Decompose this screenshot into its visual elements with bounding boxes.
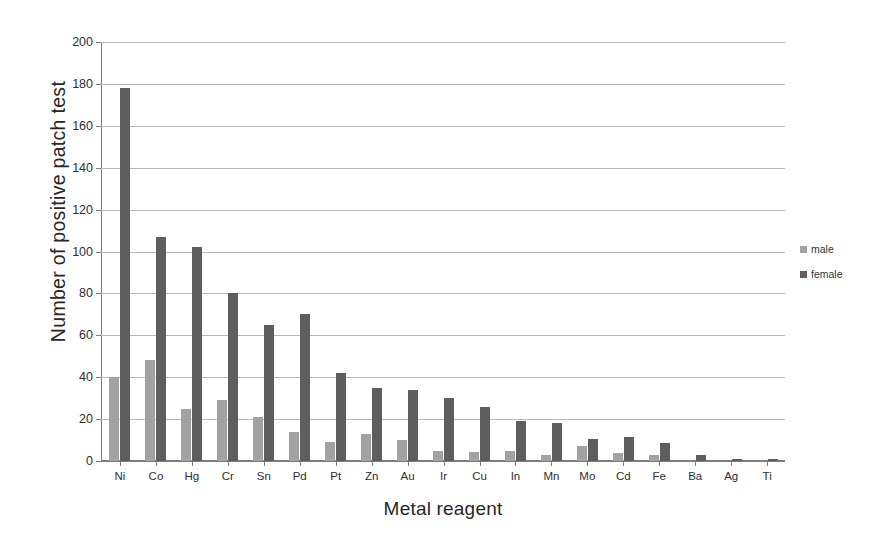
y-tick-mark (96, 377, 101, 378)
x-tick-label: Pd (293, 470, 307, 482)
bar-female-Co (156, 237, 166, 461)
bar-female-Ag (732, 459, 742, 461)
bar-group: Cr (210, 42, 246, 461)
legend-swatch-icon (800, 246, 807, 253)
y-tick-label: 180 (72, 77, 93, 91)
chart-legend: malefemale (800, 243, 872, 293)
bar-female-Pd (300, 314, 310, 461)
bar-male-Pd (289, 432, 299, 461)
x-tick-label: Mn (543, 470, 559, 482)
x-tick-label: In (511, 470, 521, 482)
bar-male-In (505, 451, 515, 461)
x-tick-mark (228, 461, 229, 466)
bar-female-Ni (120, 88, 130, 461)
x-tick-label: Ag (724, 470, 738, 482)
bar-male-Mn (541, 455, 551, 461)
bar-female-Sn (264, 325, 274, 461)
legend-label: female (811, 268, 843, 280)
x-tick-mark (695, 461, 696, 466)
x-tick-mark (408, 461, 409, 466)
bar-female-Cr (228, 293, 238, 461)
x-tick-mark (300, 461, 301, 466)
x-tick-mark (659, 461, 660, 466)
legend-item-female: female (800, 268, 872, 280)
bar-group: Zn (354, 42, 390, 461)
y-axis-title: Number of positive patch test (47, 42, 70, 382)
bars-layer: NiCoHgCrSnPdPtZnAuIrCuInMnMoCdFeBaAgTi (102, 42, 785, 461)
bar-female-Cu (480, 407, 490, 461)
y-tick-mark (96, 42, 101, 43)
legend-swatch-icon (800, 271, 807, 278)
x-tick-label: Co (149, 470, 164, 482)
x-tick-mark (731, 461, 732, 466)
x-tick-mark (336, 461, 337, 466)
bar-male-Zn (361, 434, 371, 461)
bar-female-Mo (588, 439, 598, 461)
y-tick-mark (96, 126, 101, 127)
bar-female-Fe (660, 443, 670, 461)
x-tick-label: Fe (653, 470, 666, 482)
bar-female-Zn (372, 388, 382, 461)
x-axis-title: Metal reagent (101, 498, 785, 520)
bar-group: Fe (641, 42, 677, 461)
x-tick-label: Ir (440, 470, 447, 482)
legend-item-male: male (800, 243, 872, 255)
x-tick-label: Ni (115, 470, 126, 482)
plot-area: 020406080100120140160180200 NiCoHgCrSnPd… (101, 42, 785, 461)
y-tick-mark (96, 252, 101, 253)
bar-male-Sn (253, 417, 263, 461)
y-tick-mark (96, 419, 101, 420)
bar-group: Ag (713, 42, 749, 461)
bar-male-Co (145, 360, 155, 461)
bar-female-Mn (552, 423, 562, 461)
y-tick-label: 80 (79, 286, 93, 300)
y-tick-label: 140 (72, 161, 93, 175)
bar-group: Mn (533, 42, 569, 461)
bar-group: Co (138, 42, 174, 461)
x-tick-label: Zn (365, 470, 378, 482)
x-tick-mark (156, 461, 157, 466)
x-tick-mark (120, 461, 121, 466)
bar-male-Pt (325, 442, 335, 461)
y-tick-mark (96, 335, 101, 336)
bar-male-Au (397, 440, 407, 461)
bar-female-Ba (696, 455, 706, 461)
bar-male-Hg (181, 409, 191, 461)
y-tick-mark (96, 168, 101, 169)
y-tick-mark (96, 461, 101, 462)
y-tick-label: 0 (86, 454, 93, 468)
x-tick-mark (515, 461, 516, 466)
bar-group: Pd (282, 42, 318, 461)
x-tick-label: Mo (579, 470, 595, 482)
x-tick-mark (767, 461, 768, 466)
bar-group: Pt (318, 42, 354, 461)
x-tick-label: Ba (688, 470, 702, 482)
y-tick-label: 20 (79, 412, 93, 426)
x-tick-mark (587, 461, 588, 466)
y-tick-label: 120 (72, 203, 93, 217)
bar-group: Mo (569, 42, 605, 461)
y-tick-label: 160 (72, 119, 93, 133)
x-tick-label: Sn (257, 470, 271, 482)
x-tick-mark (551, 461, 552, 466)
y-tick-mark (96, 84, 101, 85)
y-tick-label: 200 (72, 35, 93, 49)
bar-female-Ir (444, 398, 454, 461)
y-tick-mark (96, 293, 101, 294)
x-tick-label: Pt (330, 470, 341, 482)
bar-group: In (497, 42, 533, 461)
x-tick-label: Ti (763, 470, 772, 482)
bar-male-Fe (649, 455, 659, 461)
bar-male-Ir (433, 451, 443, 461)
bar-group: Ir (426, 42, 462, 461)
y-tick-label: 100 (72, 245, 93, 259)
bar-female-In (516, 421, 526, 461)
x-tick-label: Au (401, 470, 415, 482)
y-tick-label: 60 (79, 328, 93, 342)
x-tick-label: Cu (472, 470, 487, 482)
bar-male-Cr (217, 400, 227, 461)
bar-female-Hg (192, 247, 202, 461)
bar-male-Cu (469, 452, 479, 461)
bar-male-Cd (613, 453, 623, 461)
x-tick-label: Cr (222, 470, 234, 482)
